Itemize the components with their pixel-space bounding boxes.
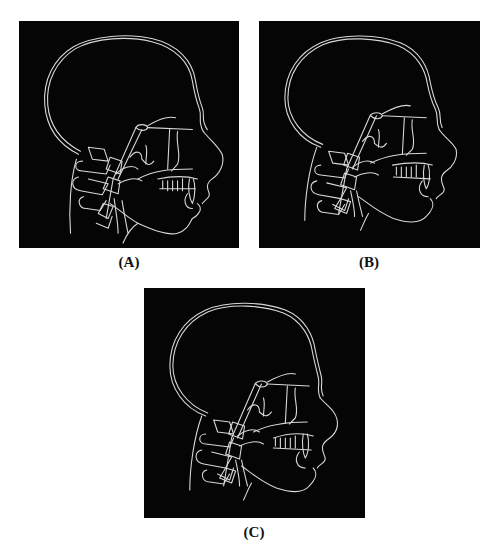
panel-label-a: (A): [99, 254, 159, 271]
panel-label-c: (C): [224, 524, 284, 541]
panel-a-skull-tracing: [19, 21, 239, 248]
skull-tracing-c: [144, 288, 365, 518]
skull-tracing-b: [259, 21, 480, 248]
skull-tracing-a: [19, 21, 239, 248]
panel-c-skull-tracing: [144, 288, 365, 518]
panel-label-b: (B): [339, 254, 399, 271]
panel-b-skull-tracing: [259, 21, 480, 248]
